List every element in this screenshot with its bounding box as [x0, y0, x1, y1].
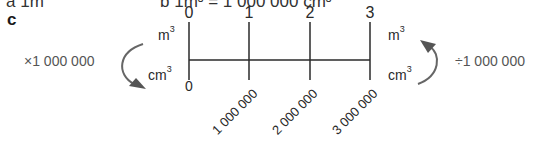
multiply-factor-label: ×1 000 000 — [24, 53, 94, 69]
m3-tick-label-1: 1 — [245, 4, 254, 22]
unit-sup: 3 — [400, 24, 405, 34]
unit-sup: 3 — [407, 64, 412, 74]
unit-m3-right: m3 — [388, 26, 405, 43]
m3-tick-label-2: 2 — [306, 4, 315, 22]
unit-text: m — [388, 27, 400, 43]
unit-text: m — [158, 27, 170, 43]
unit-sup: 3 — [167, 64, 172, 74]
divide-factor-label: ÷1 000 000 — [455, 53, 525, 69]
unit-m3-left: m3 — [158, 26, 175, 43]
unit-cm3-left: cm3 — [148, 66, 172, 83]
unit-text: cm — [388, 67, 407, 83]
multiply-arrow-icon — [122, 44, 146, 89]
number-line-diagram — [0, 0, 538, 161]
divide-arrow-icon — [418, 40, 437, 84]
m3-tick-label-0: 0 — [185, 4, 194, 22]
unit-sup: 3 — [170, 24, 175, 34]
m3-tick-label-3: 3 — [366, 4, 375, 22]
unit-text: cm — [148, 67, 167, 83]
cm3-tick-label-0: 0 — [185, 78, 193, 94]
unit-cm3-right: cm3 — [388, 66, 412, 83]
